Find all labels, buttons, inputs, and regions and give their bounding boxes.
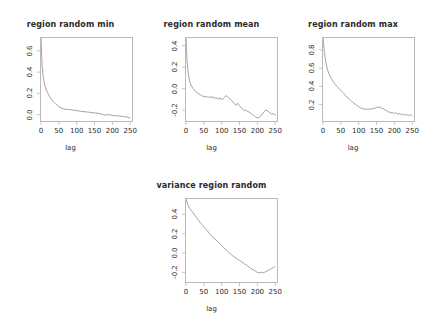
x-tick-label: 250 <box>406 127 419 135</box>
x-tick-label: 0 <box>321 127 325 135</box>
x-tick-label: 200 <box>251 127 264 135</box>
x-tick-label: 100 <box>70 127 83 135</box>
plot-area <box>185 37 278 122</box>
series-line <box>186 38 276 118</box>
x-tick-label: 100 <box>215 127 228 135</box>
x-tick-label: 50 <box>54 127 63 135</box>
y-tick-label: 0.2 <box>171 228 179 239</box>
chart-title: region random mean <box>141 20 282 29</box>
x-tick-label: 150 <box>370 127 383 135</box>
chart-title: region random max <box>282 20 424 29</box>
x-tick-label: 50 <box>199 288 208 296</box>
y-tick-label: 0.0 <box>26 109 34 120</box>
x-axis-label: lag <box>141 144 282 152</box>
x-tick-label: 200 <box>106 127 119 135</box>
x-tick-label: 250 <box>269 288 282 296</box>
x-tick-label: 0 <box>184 288 188 296</box>
x-axis-label: lag <box>0 144 141 152</box>
x-tick-label: 150 <box>233 288 246 296</box>
x-tick-label: 50 <box>336 127 345 135</box>
x-tick-label: 50 <box>199 127 208 135</box>
y-tick-label: 0.2 <box>171 62 179 73</box>
y-tick-label: 0.2 <box>308 99 316 110</box>
y-tick-label: -0.2 <box>171 266 179 280</box>
y-tick-label: 0.0 <box>171 247 179 258</box>
y-tick-label: 0.0 <box>171 83 179 94</box>
y-tick-label: 0.6 <box>308 63 316 74</box>
chart-panel-region-random-min: region random min 0.00.20.40.6 050100150… <box>0 12 141 172</box>
y-tick-label: -0.2 <box>171 103 179 117</box>
x-tick-label: 0 <box>184 127 188 135</box>
plot-area <box>185 198 278 283</box>
x-axis-label: lag <box>282 144 424 152</box>
plot-area <box>322 37 415 122</box>
x-tick-label: 0 <box>39 127 43 135</box>
chart-panel-region-random-max: region random max 0.20.40.60.8 050100150… <box>282 12 424 172</box>
plot-area <box>40 37 133 122</box>
x-tick-label: 250 <box>269 127 282 135</box>
x-axis-label: lag <box>141 305 282 313</box>
x-tick-label: 250 <box>124 127 137 135</box>
y-tick-label: 0.4 <box>26 66 34 77</box>
x-tick-label: 150 <box>88 127 101 135</box>
x-tick-label: 100 <box>215 288 228 296</box>
y-tick-label: 0.2 <box>26 88 34 99</box>
series-line <box>186 199 275 273</box>
x-tick-label: 200 <box>251 288 264 296</box>
y-tick-label: 0.4 <box>171 40 179 51</box>
x-tick-label: 150 <box>233 127 246 135</box>
chart-panel-variance-region-random: variance region random -0.20.00.20.4 050… <box>141 176 282 333</box>
chart-panel-region-random-mean: region random mean -0.20.00.20.4 0501001… <box>141 12 282 172</box>
chart-title: region random min <box>0 20 141 29</box>
y-tick-label: 0.4 <box>171 209 179 220</box>
series-line <box>323 38 412 116</box>
y-tick-label: 0.6 <box>26 45 34 56</box>
chart-title: variance region random <box>141 181 282 190</box>
y-tick-label: 0.4 <box>308 81 316 92</box>
x-tick-label: 100 <box>352 127 365 135</box>
y-tick-label: 0.8 <box>308 44 316 55</box>
x-tick-label: 200 <box>388 127 401 135</box>
series-line <box>41 38 130 118</box>
